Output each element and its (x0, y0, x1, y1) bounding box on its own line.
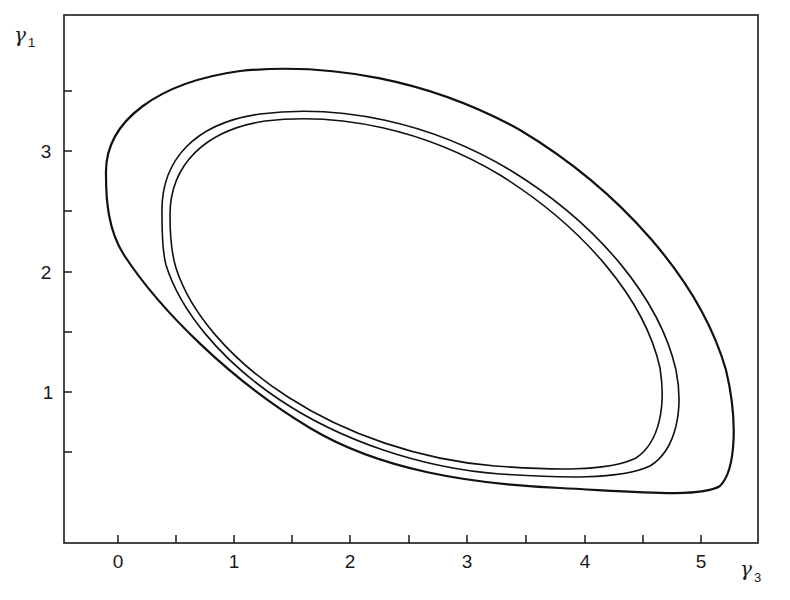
outer-orbit-curve (106, 69, 734, 493)
x-tick-label: 0 (113, 551, 124, 572)
middle-orbit-curve (162, 111, 679, 477)
x-tick-label: 1 (229, 551, 240, 572)
inner-orbit-curve (170, 119, 662, 469)
y-tick-label: 3 (41, 141, 52, 162)
y-tick-label: 1 (43, 382, 54, 403)
y-axis-ticks (64, 91, 72, 452)
x-tick-label: 4 (580, 551, 591, 572)
x-axis-label: γ 3 (740, 557, 761, 585)
phase-portrait-chart: 0 1 2 3 4 5 1 2 3 γ 1 γ 3 (0, 0, 790, 600)
svg-text:3: 3 (754, 570, 761, 585)
x-axis-ticks (118, 535, 701, 543)
y-axis-label: γ 1 (14, 23, 35, 50)
svg-text:γ: γ (740, 557, 752, 581)
svg-text:γ: γ (14, 23, 26, 47)
y-tick-label: 2 (41, 262, 52, 283)
x-tick-label: 3 (462, 551, 473, 572)
x-tick-label: 5 (696, 551, 707, 572)
x-tick-label: 2 (345, 551, 356, 572)
svg-text:1: 1 (28, 35, 35, 50)
